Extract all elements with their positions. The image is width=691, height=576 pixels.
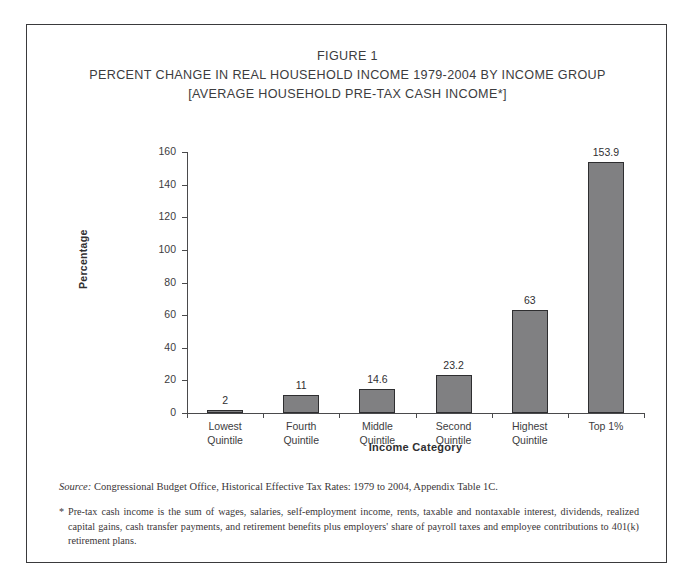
y-axis-title: Percentage	[75, 273, 195, 289]
footnote-text: Pre-tax cash income is the sum of wages,…	[68, 506, 639, 546]
bar-chart: Percentage 020406080100120140160 21114.6…	[135, 125, 635, 455]
y-axis-tick	[182, 315, 187, 316]
x-axis-tick	[644, 413, 645, 418]
y-axis-tick	[182, 185, 187, 186]
y-axis-tick	[182, 283, 187, 284]
footnote-pretax-income: * Pre-tax cash income is the sum of wage…	[59, 505, 639, 549]
y-axis-tick-label: 80	[142, 276, 176, 288]
figure-frame: FIGURE 1 PERCENT CHANGE IN REAL HOUSEHOL…	[26, 24, 667, 563]
bar-value-label: 11	[261, 379, 341, 391]
y-axis-line	[187, 152, 188, 413]
figure-subtitle: [AVERAGE HOUSEHOLD PRE-TAX CASH INCOME*]	[27, 85, 668, 104]
bar	[588, 162, 624, 413]
plot-area: 020406080100120140160 21114.623.263153.9…	[187, 152, 644, 413]
x-axis-title: Income Category	[187, 441, 644, 453]
y-axis-tick	[182, 152, 187, 153]
y-axis-tick	[182, 250, 187, 251]
y-axis-tick-label: 40	[142, 341, 176, 353]
bar	[207, 410, 243, 413]
y-axis-tick-label: 160	[142, 145, 176, 157]
source-note: Source: Congressional Budget Office, His…	[59, 480, 639, 494]
bar-value-label: 23.2	[414, 359, 494, 371]
x-axis-tick	[492, 413, 493, 418]
x-axis-category-label: Top 1%	[561, 420, 651, 434]
y-axis-tick-label: 20	[142, 373, 176, 385]
y-axis-tick	[182, 217, 187, 218]
bar-value-label: 153.9	[566, 146, 646, 158]
y-axis-tick-label: 0	[142, 406, 176, 418]
y-axis-tick-label: 100	[142, 243, 176, 255]
footnote-marker: *	[59, 505, 64, 520]
y-axis-tick-label: 140	[142, 178, 176, 190]
figure-title: PERCENT CHANGE IN REAL HOUSEHOLD INCOME …	[27, 66, 668, 85]
source-label: Source:	[59, 481, 91, 492]
bar	[283, 395, 319, 413]
bar	[512, 310, 548, 413]
bar-value-label: 14.6	[337, 373, 417, 385]
page-canvas: FIGURE 1 PERCENT CHANGE IN REAL HOUSEHOL…	[0, 0, 691, 576]
bar-value-label: 63	[490, 294, 570, 306]
bar-value-label: 2	[185, 394, 265, 406]
y-axis-tick-label: 60	[142, 308, 176, 320]
y-axis-tick-label: 120	[142, 210, 176, 222]
figure-title-block: FIGURE 1 PERCENT CHANGE IN REAL HOUSEHOL…	[27, 47, 668, 104]
source-text: Congressional Budget Office, Historical …	[94, 481, 498, 492]
y-axis-tick	[182, 380, 187, 381]
bar	[359, 389, 395, 413]
bar	[436, 375, 472, 413]
x-axis-tick	[187, 413, 188, 418]
figure-notes: Source: Congressional Budget Office, His…	[59, 480, 639, 549]
x-axis-tick	[568, 413, 569, 418]
x-axis-tick	[416, 413, 417, 418]
x-axis-tick	[339, 413, 340, 418]
x-axis-tick	[263, 413, 264, 418]
y-axis-tick	[182, 348, 187, 349]
category-label-line: Top 1%	[561, 420, 651, 434]
figure-number: FIGURE 1	[27, 47, 668, 66]
